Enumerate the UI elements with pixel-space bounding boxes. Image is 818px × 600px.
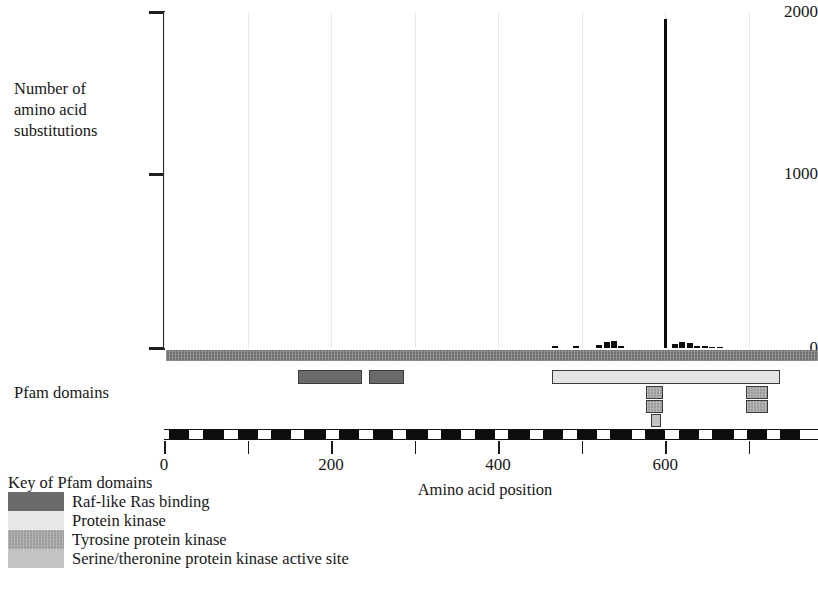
gridline-100 bbox=[248, 12, 249, 348]
domain-texture bbox=[747, 387, 767, 398]
legend-item: Raf-like Ras binding bbox=[8, 492, 349, 511]
exon-block bbox=[304, 430, 326, 439]
legend: Key of Pfam domains Raf-like Ras binding… bbox=[8, 473, 349, 568]
legend-swatch-texture bbox=[8, 530, 64, 549]
legend-title: Key of Pfam domains bbox=[8, 473, 349, 492]
gridline-400 bbox=[498, 12, 499, 348]
pfam-domain-box bbox=[552, 370, 780, 384]
protein-backbone-bar bbox=[166, 350, 818, 361]
x-axis-label-text: Amino acid position bbox=[418, 480, 553, 499]
substitution-bar bbox=[702, 346, 708, 348]
x-tick-label-200: 200 bbox=[318, 456, 344, 474]
exon-block bbox=[508, 430, 530, 439]
exon-block bbox=[203, 430, 224, 439]
y-axis-label: Number of amino acid substitutions bbox=[14, 78, 154, 141]
substitution-bar bbox=[664, 19, 666, 348]
legend-items: Raf-like Ras bindingProtein kinaseTyrosi… bbox=[8, 492, 349, 568]
substitution-bar bbox=[618, 346, 624, 348]
substitution-bar bbox=[552, 346, 558, 348]
domain-texture bbox=[647, 387, 663, 398]
exon-block bbox=[780, 430, 800, 439]
y-tick-2000 bbox=[149, 11, 163, 14]
exon-block bbox=[645, 430, 665, 439]
pfam-domain-box bbox=[646, 386, 664, 399]
exon-block bbox=[679, 430, 699, 439]
legend-item: Serine/theronine protein kinase active s… bbox=[8, 549, 349, 568]
x-tick-700 bbox=[749, 441, 751, 454]
x-tick-label-0: 0 bbox=[160, 456, 169, 474]
x-tick-600 bbox=[665, 441, 667, 454]
pfam-domain-box bbox=[646, 400, 664, 413]
substitution-bar bbox=[573, 346, 579, 348]
legend-label: Tyrosine protein kinase bbox=[64, 530, 227, 549]
exon-structure-track bbox=[164, 429, 818, 440]
substitution-bar bbox=[611, 341, 617, 348]
substitution-bar bbox=[709, 347, 715, 349]
domain-texture bbox=[747, 401, 767, 412]
y-axis-label-line-2: amino acid bbox=[14, 99, 154, 120]
exon-block bbox=[475, 430, 495, 439]
legend-swatch bbox=[8, 511, 64, 530]
y-tick-0 bbox=[149, 347, 163, 350]
legend-item: Tyrosine protein kinase bbox=[8, 530, 349, 549]
legend-label: Protein kinase bbox=[64, 511, 166, 530]
gridline-200 bbox=[331, 12, 332, 348]
y-tick-1000 bbox=[149, 173, 163, 176]
exon-block bbox=[747, 430, 767, 439]
exon-block bbox=[577, 430, 597, 439]
pfam-domain-box bbox=[746, 400, 768, 413]
exon-block bbox=[339, 430, 359, 439]
pfam-domain-box bbox=[369, 370, 404, 384]
x-tick-300 bbox=[415, 441, 417, 454]
pfam-domain-box bbox=[651, 414, 661, 427]
gridline-500 bbox=[582, 12, 583, 348]
y-axis-label-line-1: Number of bbox=[14, 78, 154, 99]
gridline-700 bbox=[749, 12, 750, 348]
exon-block bbox=[406, 430, 428, 439]
gridline-300 bbox=[415, 12, 416, 348]
legend-label: Serine/theronine protein kinase active s… bbox=[64, 549, 349, 568]
x-tick-label-600: 600 bbox=[652, 456, 678, 474]
substitution-bar bbox=[596, 345, 602, 348]
pfam-domains-label: Pfam domains bbox=[14, 383, 109, 402]
x-tick-200 bbox=[331, 441, 333, 454]
exon-block bbox=[238, 430, 258, 439]
exon-block bbox=[610, 430, 632, 439]
substitution-bar bbox=[717, 347, 723, 349]
x-tick-label-400: 400 bbox=[485, 456, 511, 474]
x-tick-0 bbox=[164, 441, 166, 454]
substitution-bar bbox=[687, 343, 693, 348]
legend-item: Protein kinase bbox=[8, 511, 349, 530]
x-tick-500 bbox=[582, 441, 584, 454]
exon-block bbox=[271, 430, 291, 439]
figure-canvas: Number of amino acid substitutions 2000 … bbox=[0, 0, 818, 600]
exon-block bbox=[169, 430, 189, 439]
x-tick-400 bbox=[498, 441, 500, 454]
legend-label: Raf-like Ras binding bbox=[64, 492, 209, 511]
substitution-bar bbox=[672, 344, 678, 348]
substitution-bar bbox=[679, 342, 685, 348]
substitution-bar bbox=[694, 346, 700, 348]
y-axis-label-line-3: substitutions bbox=[14, 120, 154, 141]
pfam-domain-box bbox=[746, 386, 768, 399]
domain-texture bbox=[647, 401, 663, 412]
x-tick-100 bbox=[248, 441, 250, 454]
backbone-texture bbox=[166, 350, 818, 361]
pfam-domain-box bbox=[298, 370, 362, 384]
legend-swatch bbox=[8, 549, 64, 568]
substitution-bar bbox=[604, 342, 610, 348]
exon-block bbox=[441, 430, 461, 439]
legend-swatch bbox=[8, 492, 64, 511]
exon-block bbox=[712, 430, 734, 439]
legend-swatch bbox=[8, 530, 64, 549]
plot-area bbox=[164, 12, 818, 348]
exon-block bbox=[543, 430, 563, 439]
gridline-0 bbox=[164, 12, 165, 348]
exon-block bbox=[373, 430, 393, 439]
